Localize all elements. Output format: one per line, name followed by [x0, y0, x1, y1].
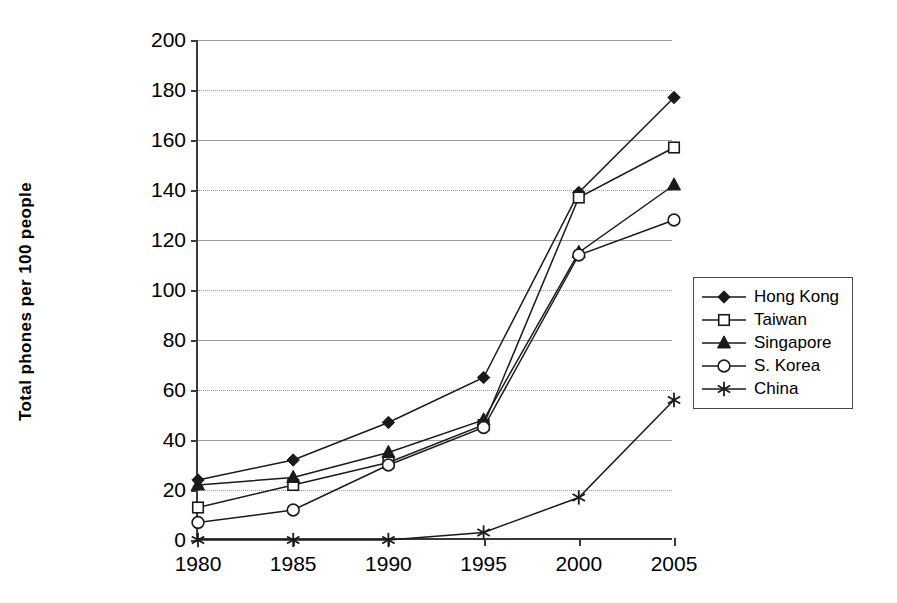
series-layer	[198, 40, 674, 540]
plot-area: 020406080100120140160180200 198019851990…	[196, 40, 672, 540]
legend-symbol	[700, 356, 748, 376]
y-axis-tick-mark	[191, 40, 198, 42]
filled-diamond-marker	[382, 416, 394, 428]
filled-diamond-marker	[287, 454, 299, 466]
legend-symbol	[700, 379, 748, 399]
y-axis-tick-mark	[191, 390, 198, 392]
series-line	[198, 400, 674, 540]
series-line	[198, 185, 674, 485]
legend-item-china[interactable]: China	[700, 377, 844, 400]
filled-diamond-marker	[718, 290, 730, 302]
y-axis-tick-mark	[191, 440, 198, 442]
legend-item-s-korea[interactable]: S. Korea	[700, 354, 844, 377]
series-china	[192, 393, 680, 547]
legend-item-taiwan[interactable]: Taiwan	[700, 308, 844, 331]
open-square-marker	[193, 502, 204, 513]
legend-item-singapore[interactable]: Singapore	[700, 331, 844, 354]
filled-triangle-marker	[667, 178, 680, 190]
open-circle-marker	[478, 422, 490, 434]
open-circle-marker	[718, 360, 730, 372]
open-circle-marker	[573, 249, 585, 261]
legend-label: Taiwan	[748, 310, 807, 330]
open-square-marker	[669, 142, 680, 153]
series-line	[198, 98, 674, 481]
open-circle-marker	[192, 517, 204, 529]
open-circle-marker	[383, 459, 395, 471]
x-axis-tick-mark	[674, 538, 676, 546]
legend-label: S. Korea	[748, 356, 820, 376]
legend-label: Hong Kong	[748, 287, 839, 307]
y-axis-tick-mark	[191, 90, 198, 92]
open-square-marker	[719, 314, 730, 325]
legend-label: Singapore	[748, 333, 832, 353]
chart-figure: Total phones per 100 people 020406080100…	[0, 0, 897, 603]
legend-symbol	[700, 333, 748, 353]
legend-symbol	[700, 287, 748, 307]
open-circle-marker	[668, 214, 680, 226]
y-axis-tick-mark	[191, 190, 198, 192]
y-axis-title: Total phones per 100 people	[6, 0, 46, 603]
filled-triangle-marker	[717, 335, 730, 347]
filled-diamond-marker	[477, 371, 489, 383]
series-s-korea	[192, 214, 680, 528]
open-square-marker	[574, 192, 585, 203]
y-axis-tick-mark	[191, 340, 198, 342]
y-axis-tick-mark	[191, 140, 198, 142]
legend: Hong KongTaiwanSingaporeS. KoreaChina	[693, 277, 853, 409]
open-circle-marker	[287, 504, 299, 516]
y-axis-tick-mark	[191, 290, 198, 292]
legend-symbol	[700, 310, 748, 330]
series-line	[198, 148, 674, 508]
series-hong-kong	[192, 91, 680, 486]
series-line	[198, 220, 674, 523]
legend-label: China	[748, 379, 798, 399]
series-taiwan	[193, 142, 680, 513]
y-axis-tick-mark	[191, 240, 198, 242]
legend-item-hong-kong[interactable]: Hong Kong	[700, 285, 844, 308]
